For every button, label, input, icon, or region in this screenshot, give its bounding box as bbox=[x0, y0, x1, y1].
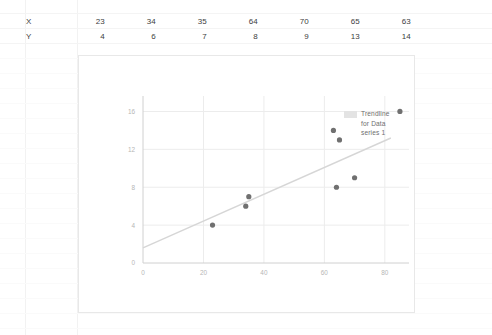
table-cell[interactable]: 65 bbox=[314, 17, 360, 26]
table-cell[interactable]: 7 bbox=[161, 32, 207, 41]
table-cell[interactable]: 64 bbox=[212, 17, 258, 26]
trendline bbox=[143, 138, 391, 248]
table-cell[interactable]: 23 bbox=[59, 17, 105, 26]
table-cell[interactable]: 70 bbox=[263, 17, 309, 26]
table-row[interactable]: Y 4 6 7 8 9 13 14 bbox=[0, 29, 492, 44]
table-row[interactable]: X 23 34 35 64 70 65 63 bbox=[0, 14, 492, 29]
scatter-plot[interactable]: 020406080 0481216 bbox=[79, 56, 416, 314]
svg-text:60: 60 bbox=[321, 269, 329, 276]
sheet-gridline-vertical bbox=[25, 0, 26, 335]
data-table: X 23 34 35 64 70 65 63 Y 4 6 7 8 9 13 14 bbox=[0, 14, 492, 44]
sheet-gridline-horizontal bbox=[0, 328, 492, 329]
y-axis-tick-labels: 0481216 bbox=[128, 108, 136, 267]
svg-text:4: 4 bbox=[131, 222, 135, 229]
svg-text:80: 80 bbox=[381, 269, 389, 276]
svg-text:12: 12 bbox=[128, 146, 136, 153]
table-cell[interactable]: 9 bbox=[263, 32, 309, 41]
svg-text:16: 16 bbox=[128, 108, 136, 115]
chart-legend[interactable]: Trendline for Data series 1 bbox=[344, 109, 412, 138]
svg-text:0: 0 bbox=[131, 259, 135, 266]
table-cell[interactable]: 63 bbox=[365, 17, 411, 26]
table-cell[interactable]: 4 bbox=[59, 32, 105, 41]
row-header-y: Y bbox=[26, 32, 32, 41]
table-cell[interactable]: 6 bbox=[110, 32, 156, 41]
legend-swatch-trendline bbox=[344, 111, 357, 118]
chart-container[interactable]: 020406080 0481216 Trendline for Data ser… bbox=[78, 55, 415, 313]
x-axis-tick-labels: 020406080 bbox=[141, 269, 389, 276]
table-cell[interactable]: 34 bbox=[110, 17, 156, 26]
svg-text:40: 40 bbox=[260, 269, 268, 276]
legend-label-trendline: Trendline for Data series 1 bbox=[361, 109, 390, 138]
svg-text:20: 20 bbox=[200, 269, 208, 276]
table-cell[interactable]: 8 bbox=[212, 32, 258, 41]
svg-text:0: 0 bbox=[141, 269, 145, 276]
table-cell[interactable]: 14 bbox=[365, 32, 411, 41]
row-header-x: X bbox=[26, 17, 32, 26]
table-cell[interactable]: 35 bbox=[161, 17, 207, 26]
table-cell[interactable]: 13 bbox=[314, 32, 360, 41]
svg-text:8: 8 bbox=[131, 184, 135, 191]
